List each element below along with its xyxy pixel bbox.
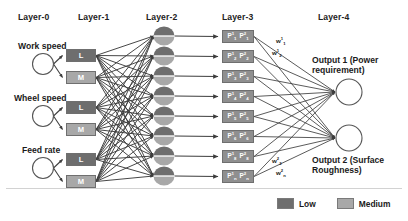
consequent-term-2: P23 (240, 72, 249, 82)
input-label-feed-rate: Feed rate (22, 145, 60, 155)
edges-input-to-membership (54, 56, 63, 182)
consequent-term-2: P2n (240, 172, 249, 182)
consequent-term-1: P16 (227, 132, 236, 142)
weight-label-weight-w2-2: w22 (272, 156, 282, 166)
membership-box-work-speed-medium: M (66, 71, 96, 84)
consequent-term-2: P26 (240, 132, 249, 142)
consequent-term-2: P24 (240, 92, 249, 102)
rule-node-rule-3 (154, 67, 175, 86)
consequent-box-p-node-2: P12P22 (222, 50, 254, 63)
membership-box-wheel-speed-low: L (66, 101, 96, 114)
input-label-wheel-speed: Wheel speed (14, 93, 67, 103)
consequent-term-2: P22 (240, 52, 249, 62)
rule-node-rule-1 (154, 27, 175, 46)
layer-label-layer-4: Layer-4 (318, 12, 349, 22)
membership-box-work-speed-low: L (66, 49, 96, 62)
consequent-term-1: P12 (227, 52, 236, 62)
consequent-term-1: P14 (227, 92, 236, 102)
legend-label-medium: Medium (359, 199, 391, 209)
input-node-wheel-speed (33, 106, 54, 127)
layer-label-layer-3: Layer-3 (222, 12, 253, 22)
rule-node-rule-8 (154, 167, 175, 186)
layer-label-layer-2: Layer-2 (146, 12, 177, 22)
legend-swatch-medium (337, 198, 354, 209)
consequent-term-2: P28 (240, 152, 249, 162)
output-node-output-2 (336, 125, 362, 151)
rule-node-rule-7 (154, 147, 175, 166)
output-nodes (336, 79, 362, 151)
fuzzy-neural-network-diagram: Layer-0Layer-1Layer-2Layer-3Layer-4 Work… (0, 0, 408, 221)
edges-rule-to-consequent (175, 36, 219, 177)
rule-node-rule-4 (154, 87, 175, 106)
consequent-box-p-node-6: P16P26 (222, 130, 254, 143)
input-label-work-speed: Work speed (18, 41, 67, 51)
consequent-box-p-node-4: P14P24 (222, 90, 254, 103)
consequent-term-1: P18 (227, 152, 236, 162)
weight-label-weight-w2-n: w2n (276, 168, 286, 178)
consequent-box-p-node-7: P18P28 (222, 150, 254, 163)
input-node-work-speed (33, 54, 54, 75)
output-node-output-1 (336, 79, 362, 105)
input-node-feed-rate (33, 158, 54, 179)
consequent-term-2: P25 (240, 112, 249, 122)
layer-label-layer-1: Layer-1 (78, 12, 109, 22)
rule-node-rule-2 (154, 47, 175, 66)
weight-label-weight-w1-2: w12 (272, 48, 282, 58)
legend-label-low: Low (299, 199, 316, 209)
rule-nodes (154, 27, 175, 186)
consequent-term-1: P11 (227, 32, 236, 42)
legend-divider (6, 188, 402, 189)
output-label-output-1: Output 1 (Power requirement) (312, 55, 404, 75)
consequent-term-1: P1n (227, 172, 236, 182)
rule-node-rule-6 (154, 127, 175, 146)
output-label-output-2: Output 2 (Surface Roughness) (312, 155, 404, 175)
input-nodes (33, 54, 54, 179)
consequent-box-p-node-3: P13P23 (222, 70, 254, 83)
layer-label-layer-0: Layer-0 (18, 12, 49, 22)
consequent-box-p-node-8: P1nP2n (222, 170, 254, 183)
rule-node-rule-5 (154, 107, 175, 126)
legend-swatch-low (277, 198, 294, 209)
legend: Low Medium (277, 198, 390, 209)
consequent-box-p-node-1: P11P21 (222, 30, 254, 43)
membership-box-feed-rate-low: L (66, 153, 96, 166)
consequent-box-p-node-5: P15P25 (222, 110, 254, 123)
membership-box-wheel-speed-medium: M (66, 123, 96, 136)
weight-label-weight-w1-1: w11 (276, 36, 286, 46)
consequent-term-1: P15 (227, 112, 236, 122)
consequent-term-1: P13 (227, 72, 236, 82)
membership-box-feed-rate-medium: M (66, 175, 96, 188)
consequent-term-2: P21 (240, 32, 249, 42)
edges-membership-to-rule (96, 36, 154, 182)
